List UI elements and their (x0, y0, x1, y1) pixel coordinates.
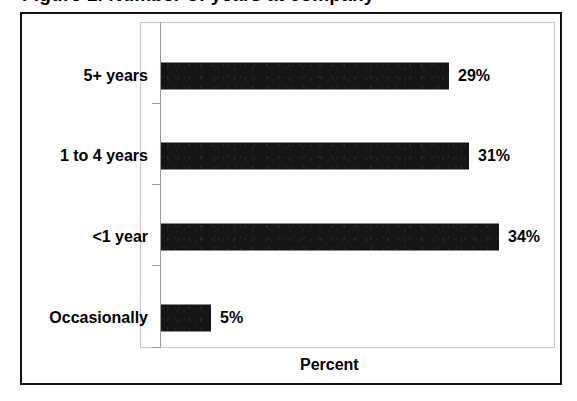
bar-1-to-4-years (161, 143, 469, 170)
category-label: 5+ years (35, 67, 160, 85)
category-label-slot: 1 to 4 years (10, 116, 160, 196)
bar-value-label: 31% (478, 147, 510, 165)
bar-row: 1 to 4 years 31% (0, 116, 577, 196)
figure-caption: Figure 1. Number of years at company (22, 0, 374, 6)
category-label: Occasionally (35, 309, 160, 327)
bar-less-than-1-year (161, 224, 499, 251)
x-axis-title: Percent (300, 356, 359, 374)
chart-plot-area: 5+ years 29% 1 to 4 years 31% <1 year 34… (0, 22, 577, 348)
bar-row: <1 year 34% (0, 197, 577, 277)
category-label-slot: <1 year (10, 197, 160, 277)
category-label-slot: Occasionally (10, 278, 160, 358)
bar-row: 5+ years 29% (0, 36, 577, 116)
category-label: <1 year (35, 228, 160, 246)
bar-value-label: 34% (508, 228, 540, 246)
bar-value-label: 29% (458, 67, 490, 85)
category-label-slot: 5+ years (10, 36, 160, 116)
bar-row: Occasionally 5% (0, 278, 577, 358)
category-label: 1 to 4 years (35, 147, 160, 165)
bar-occasionally (161, 305, 211, 332)
bar-5-plus-years (161, 63, 449, 90)
bar-value-label: 5% (220, 309, 243, 327)
